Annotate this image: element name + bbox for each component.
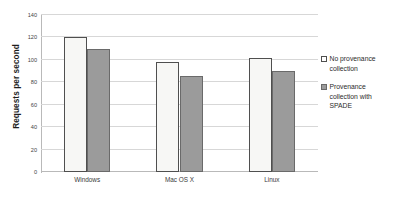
y-axis-tick-labels: 020406080100120140 xyxy=(18,0,39,197)
y-axis-tick-label: 80 xyxy=(31,79,37,85)
legend-swatch-icon xyxy=(321,56,327,62)
y-axis-tick-label: 120 xyxy=(28,34,37,40)
bar-chart-figure: Requests per second 020406080100120140 W… xyxy=(0,0,394,197)
gridline xyxy=(41,14,318,15)
chart-legend: No provenance collectionProvenance colle… xyxy=(321,54,393,120)
legend-label: Provenance collection with SPADE xyxy=(330,82,394,111)
legend-entry[interactable]: No provenance collection xyxy=(321,54,393,73)
bar xyxy=(272,71,295,172)
x-axis-tick-label: Linux xyxy=(264,176,279,183)
legend-label: No provenance collection xyxy=(330,54,394,73)
bar xyxy=(64,37,87,172)
y-axis-tick-label: 40 xyxy=(31,124,37,130)
plot-area xyxy=(41,15,318,172)
y-axis-tick-label: 20 xyxy=(31,147,37,153)
y-axis-tick-label: 140 xyxy=(28,12,37,18)
x-axis-tick-labels: WindowsMac OS XLinux xyxy=(41,176,318,192)
bar xyxy=(87,49,110,172)
bar xyxy=(180,76,203,172)
x-axis-tick-label: Mac OS X xyxy=(165,176,194,183)
bar xyxy=(249,58,272,172)
legend-swatch-icon xyxy=(321,84,327,90)
y-axis-tick-label: 100 xyxy=(28,57,37,63)
y-axis-tick-label: 60 xyxy=(31,102,37,108)
x-axis-tick-label: Windows xyxy=(74,176,100,183)
bar xyxy=(156,62,179,172)
legend-entry[interactable]: Provenance collection with SPADE xyxy=(321,82,393,111)
y-axis-tick-label: 0 xyxy=(34,169,37,175)
